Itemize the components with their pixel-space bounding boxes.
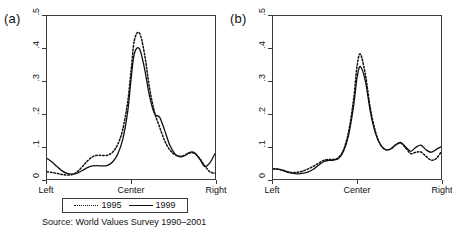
y-tick-label: .4: [32, 41, 41, 49]
legend-entry-1995: 1995: [74, 201, 121, 210]
y-tick-label: .5: [258, 8, 267, 16]
panel-a-plot-area: [46, 15, 216, 180]
panel-b-curves: [273, 16, 441, 179]
legend-entry-1999: 1999: [129, 201, 176, 210]
y-tick-label: 0: [32, 173, 41, 178]
y-tick-label: .1: [258, 140, 267, 148]
panel-a-legend: 1995 1999: [62, 198, 188, 213]
x-tick-mark: [357, 180, 358, 184]
panel-b: (b) .5.4.3.2.10 LeftCenterRight Support …: [226, 0, 452, 235]
panel-a: (a) .5.4.3.2.10 LeftCenterRight 1995 199…: [0, 0, 226, 235]
legend-label-1995: 1995: [101, 201, 121, 210]
legend-label-1999: 1999: [156, 201, 176, 210]
x-tick-label: Center: [117, 186, 144, 195]
panel-b-plot-area: [272, 15, 442, 180]
figure-container: (a) .5.4.3.2.10 LeftCenterRight 1995 199…: [0, 0, 452, 235]
series-line-support-left-2005: [273, 66, 441, 173]
x-tick-mark: [216, 180, 217, 184]
y-tick-label: .3: [32, 74, 41, 82]
panel-b-x-axis: LeftCenterRight: [272, 180, 442, 202]
x-tick-label: Right: [205, 186, 226, 195]
panel-a-curves: [47, 16, 215, 179]
y-tick-label: .1: [32, 140, 41, 148]
x-tick-label: Right: [431, 186, 452, 195]
series-line-1995: [47, 32, 215, 175]
x-tick-mark: [131, 180, 132, 184]
y-tick-label: 0: [258, 173, 267, 178]
y-tick-label: .5: [32, 8, 41, 16]
x-tick-label: Center: [343, 186, 370, 195]
panel-b-y-axis: .5.4.3.2.10: [226, 0, 272, 235]
x-tick-label: Left: [38, 186, 53, 195]
solid-line-swatch-icon: [129, 202, 153, 209]
x-tick-mark: [272, 180, 273, 184]
x-tick-mark: [46, 180, 47, 184]
x-tick-mark: [442, 180, 443, 184]
panel-a-y-axis: .5.4.3.2.10: [0, 0, 46, 235]
y-tick-label: .4: [258, 41, 267, 49]
panel-b-label: (b): [230, 12, 247, 25]
y-tick-label: .2: [258, 107, 267, 115]
y-tick-label: .2: [32, 107, 41, 115]
panel-a-label: (a): [4, 12, 21, 25]
dotted-line-swatch-icon: [74, 202, 98, 209]
panel-a-source-note: Source: World Values Survey 1990–2001: [42, 218, 206, 227]
x-tick-label: Left: [264, 186, 279, 195]
y-tick-label: .3: [258, 74, 267, 82]
series-line-all-voters: [273, 54, 441, 173]
